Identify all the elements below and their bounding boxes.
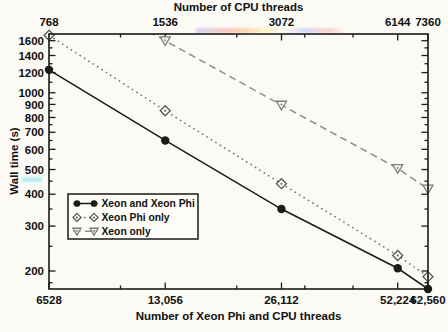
diamond-center-dot (280, 183, 282, 185)
y-tick-label: 1200 (18, 67, 44, 79)
y-tick-label: 1600 (18, 35, 44, 47)
filled-circle-marker (91, 200, 98, 207)
x2-tick-label: 1536 (152, 16, 178, 28)
x-tick-label: 13,056 (148, 294, 183, 306)
y-tick-label: 1400 (18, 50, 44, 62)
legend: Xeon and Xeon PhiXeon Phi onlyXeon only (68, 194, 198, 239)
triangle-center-dot (280, 104, 282, 106)
y-tick-label: 300 (25, 220, 44, 232)
x-tick-label: 62,560 (410, 294, 445, 306)
x2-tick-label: 768 (39, 16, 59, 28)
legend-label: Xeon and Xeon Phi (102, 198, 195, 209)
y-tick-label: 200 (25, 265, 44, 277)
y-axis-title: Wall time (s) (8, 127, 20, 194)
diamond-center-dot (93, 216, 95, 218)
filled-circle-marker (74, 200, 81, 207)
y-tick-label: 600 (25, 144, 44, 156)
x-tick-label: 26,112 (264, 294, 299, 306)
x2-tick-label: 3072 (269, 16, 295, 28)
wall-time-scaling-chart: Number of CPU threads 160014001200100090… (0, 0, 448, 332)
diamond-center-dot (397, 255, 399, 257)
y-tick-label: 900 (25, 99, 44, 111)
x2-tick-label: 6144 (385, 16, 411, 28)
x-tick-label: 6528 (36, 294, 62, 306)
y-tick-label: 700 (25, 126, 44, 138)
triangle-center-dot (76, 230, 78, 232)
diamond-center-dot (164, 110, 166, 112)
filled-circle-marker (277, 205, 285, 213)
filled-circle-marker (161, 136, 169, 144)
plot-area: 1600140012001000900800700600500400300200… (0, 0, 448, 332)
triangle-center-dot (164, 39, 166, 41)
filled-circle-marker (394, 264, 402, 272)
y-tick-label: 800 (25, 112, 44, 124)
legend-label: Xeon only (102, 226, 151, 237)
y-tick-label: 1000 (18, 87, 44, 99)
y-tick-label: 500 (25, 164, 44, 176)
legend-label: Xeon Phi only (102, 212, 170, 223)
bottom-axis-title: Number of Xeon Phi and CPU threads (49, 310, 428, 322)
triangle-center-dot (397, 167, 399, 169)
diamond-center-dot (76, 216, 78, 218)
triangle-center-dot (93, 230, 95, 232)
y-tick-label: 400 (25, 188, 44, 200)
x2-tick-label: 7360 (415, 16, 441, 28)
